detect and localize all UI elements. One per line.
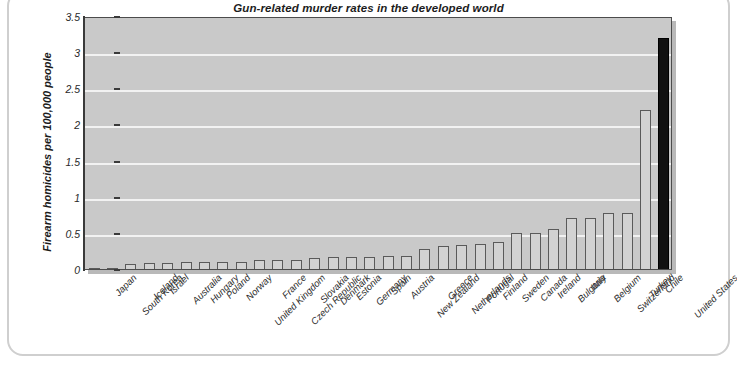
bar <box>603 213 614 269</box>
y-tick-mark <box>114 88 120 90</box>
x-axis-labels: JapanSouth KoreaIcelandIsraelAustraliaHu… <box>84 272 672 367</box>
bar <box>89 268 100 269</box>
bar <box>254 260 265 269</box>
x-tick-label: Austria <box>408 272 437 301</box>
bar <box>181 262 192 269</box>
y-tick-mark <box>114 161 120 163</box>
plot-area <box>84 17 672 270</box>
y-axis-line <box>83 16 85 271</box>
y-tick-label: 0 <box>40 264 80 276</box>
bar <box>364 257 375 269</box>
bar <box>622 213 633 269</box>
bar <box>511 233 522 269</box>
bar <box>125 264 136 269</box>
bar <box>383 256 394 269</box>
bar <box>530 233 541 269</box>
x-tick-label: Japan <box>113 272 139 298</box>
bar <box>640 110 651 269</box>
x-tick-label-wrapper: Japan <box>113 272 139 298</box>
bar <box>419 249 430 269</box>
x-tick-label-wrapper: Belgium <box>611 272 643 304</box>
bar <box>162 263 173 270</box>
bar <box>144 263 155 270</box>
bar <box>291 260 302 269</box>
y-tick-mark <box>114 16 120 18</box>
bar-series <box>85 18 671 269</box>
y-tick-mark <box>114 197 120 199</box>
chart-page: Gun-related murder rates in the develope… <box>0 0 737 371</box>
bar <box>199 262 210 269</box>
bar <box>309 258 320 269</box>
bar <box>658 38 669 269</box>
bar <box>493 242 504 269</box>
y-tick-mark <box>114 269 120 271</box>
bar <box>456 245 467 269</box>
y-tick-mark <box>114 124 120 126</box>
bar <box>401 256 412 269</box>
bar <box>548 229 559 269</box>
bar <box>585 218 596 269</box>
bar <box>346 257 357 269</box>
bar <box>328 257 339 269</box>
y-tick-mark <box>114 52 120 54</box>
y-tick-mark <box>114 233 120 235</box>
bar <box>438 246 449 269</box>
bar <box>217 262 228 269</box>
bar <box>566 218 577 269</box>
x-tick-label-wrapper: Austria <box>408 272 437 301</box>
bar <box>475 244 486 269</box>
x-tick-label: Belgium <box>611 272 643 304</box>
y-axis-title: Firearm homicides per 100,000 people <box>41 47 53 257</box>
y-tick-label: 3.5 <box>40 11 80 23</box>
bar <box>272 260 283 269</box>
chart-title: Gun-related murder rates in the develope… <box>0 2 737 14</box>
bar <box>236 262 247 269</box>
